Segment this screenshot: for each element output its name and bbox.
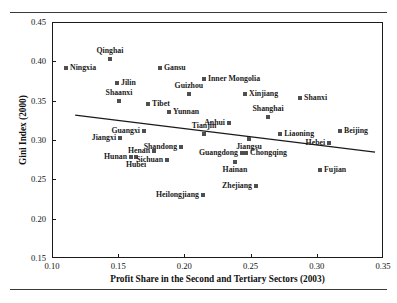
data-point-label: Guizhou (175, 82, 204, 90)
x-axis-title: Profit Share in the Second and Tertiary … (40, 274, 395, 284)
data-point-label: Sichuan (136, 157, 163, 165)
data-point-label: Liaoning (284, 130, 314, 138)
data-point-marker (243, 92, 247, 96)
data-point-label: Fujian (324, 166, 346, 174)
data-point-label: Heilongjiang (156, 191, 199, 199)
x-tick-mark (251, 254, 252, 258)
data-point-label: Hunan (104, 153, 127, 161)
data-point-marker (129, 155, 133, 159)
data-point-label: Hainan (223, 166, 248, 174)
data-point-label: Yunnan (173, 109, 199, 117)
x-tick-label: 0.25 (231, 261, 271, 271)
data-point-marker (117, 99, 121, 103)
bottom-rule (10, 289, 387, 290)
x-tick-label: 0.20 (164, 261, 204, 271)
data-point-marker (146, 102, 150, 106)
y-axis-title: Gini Index (2000) (18, 55, 28, 205)
data-point-marker (167, 110, 171, 114)
data-point-label: Shaanxi (106, 90, 133, 98)
data-point-marker (233, 160, 237, 164)
data-point-marker (142, 129, 146, 133)
data-point-marker (247, 137, 251, 141)
data-point-label: Hebei (306, 139, 326, 147)
x-tick-mark (118, 254, 119, 258)
data-point-marker (108, 57, 112, 61)
y-tick-mark (52, 179, 56, 180)
data-point-marker (165, 158, 169, 162)
data-point-marker (254, 184, 258, 188)
data-point-label: Zhejiang (222, 183, 252, 191)
data-point-marker (179, 145, 183, 149)
data-point-label: Shanghai (252, 105, 283, 113)
data-point-marker (152, 149, 156, 153)
y-tick-mark (52, 140, 56, 141)
x-tick-mark (184, 254, 185, 258)
data-point-label: Tibet (152, 100, 170, 108)
data-point-label: Xinjiang (249, 90, 278, 98)
data-point-marker (327, 141, 331, 145)
data-point-label: Shanxi (304, 94, 327, 102)
data-point-marker (187, 92, 191, 96)
data-point-label: Jiangxi (92, 135, 116, 143)
top-rule (10, 12, 387, 13)
data-point-marker (202, 132, 206, 136)
figure-container: 0.150.200.250.300.350.400.45 0.100.150.2… (0, 0, 397, 303)
data-point-marker (64, 66, 68, 70)
data-point-label: Beijing (344, 127, 368, 135)
data-point-marker (244, 151, 248, 155)
data-point-marker (158, 66, 162, 70)
y-tick-label: 0.45 (12, 17, 46, 27)
data-point-marker (227, 121, 231, 125)
data-point-label: Inner Mongolia (208, 75, 260, 83)
data-point-marker (118, 136, 122, 140)
data-point-marker (201, 193, 205, 197)
data-point-label: Qinghai (97, 47, 124, 55)
data-point-label: Tianjin (192, 122, 217, 130)
data-point-marker (318, 168, 322, 172)
data-point-marker (338, 129, 342, 133)
data-point-marker (115, 81, 119, 85)
figure-title (10, 0, 387, 8)
x-tick-label: 0.10 (32, 261, 72, 271)
data-point-marker (266, 115, 270, 119)
data-point-label: Gansu (164, 64, 186, 72)
x-tick-label: 0.35 (363, 261, 397, 271)
x-tick-label: 0.30 (297, 261, 337, 271)
y-tick-mark (52, 101, 56, 102)
data-point-marker (278, 132, 282, 136)
data-point-label: Chongqing (250, 149, 287, 157)
data-point-label: Ningxia (70, 64, 96, 72)
y-tick-mark (52, 219, 56, 220)
data-point-marker (298, 96, 302, 100)
data-point-label: Jilin (121, 79, 136, 87)
data-point-label: Guangdong (199, 149, 238, 157)
y-tick-mark (52, 61, 56, 62)
y-tick-label: 0.20 (12, 214, 46, 224)
x-tick-label: 0.15 (98, 261, 138, 271)
x-tick-mark (317, 254, 318, 258)
